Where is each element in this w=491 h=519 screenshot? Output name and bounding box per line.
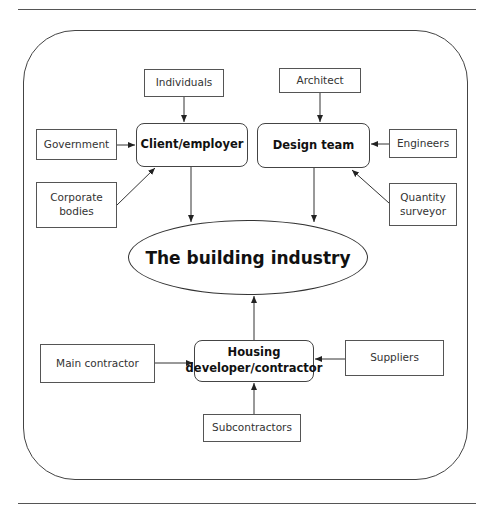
node-label: Suppliers [370,351,419,365]
node-label: Engineers [397,137,449,151]
node-label: Main contractor [56,357,139,371]
hub-label: Client/employer [141,137,244,153]
node-individuals: Individuals [144,69,224,97]
node-label: Architect [296,74,343,88]
node-subcontractors: Subcontractors [203,414,301,442]
node-main-contractor: Main contractor [40,344,155,383]
hub-label: Housing developer/contractor [186,345,323,376]
node-label: Corporate bodies [50,191,103,218]
center-label: The building industry [145,248,350,268]
hub-housing-developer: Housing developer/contractor [194,340,314,382]
hub-design-team: Design team [257,123,370,168]
hub-label: Design team [273,138,355,154]
node-corporate-bodies: Corporate bodies [36,182,117,228]
node-quantity-surveyor: Quantity surveyor [389,183,457,226]
top-rule [18,9,476,10]
node-architect: Architect [279,68,361,93]
node-label: Government [44,138,109,152]
node-engineers: Engineers [389,129,457,158]
hub-client-employer: Client/employer [136,123,248,167]
bottom-rule [18,503,476,504]
node-label: Individuals [156,76,213,90]
node-label: Quantity surveyor [400,191,446,218]
center-building-industry: The building industry [128,220,368,295]
node-government: Government [36,129,117,160]
node-suppliers: Suppliers [345,340,444,376]
node-label: Subcontractors [212,421,292,435]
